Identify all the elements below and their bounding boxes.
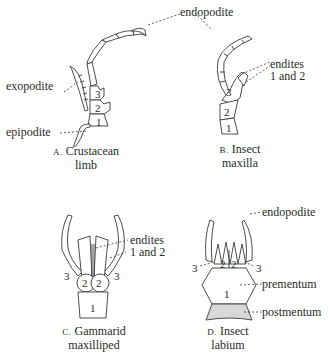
segment-d-3-left: 3 xyxy=(192,262,198,274)
figure-b-insect-maxilla xyxy=(192,10,270,134)
segment-d-2-left: 2 xyxy=(220,258,226,270)
figure-a-crustacean-limb xyxy=(60,14,180,147)
caption-d-line1: Insect xyxy=(220,324,249,338)
caption-a-line2: limb xyxy=(75,158,97,172)
label-c-endites-numbers: 1 and 2 xyxy=(130,246,165,258)
segment-a-1: 1 xyxy=(96,116,102,128)
segment-b-1: 1 xyxy=(226,122,232,134)
caption-c: C. Gammarid maxilliped xyxy=(52,325,136,352)
caption-a-letter: A. xyxy=(53,147,63,157)
segment-c-3-right: 3 xyxy=(114,270,120,282)
segment-c-3-left: 3 xyxy=(64,270,70,282)
segment-d-1: 1 xyxy=(224,288,230,300)
segment-a-2: 2 xyxy=(95,102,101,114)
caption-c-letter: C. xyxy=(62,327,71,337)
label-a-exopodite: exopodite xyxy=(6,80,53,92)
segment-d-2-right: 2 xyxy=(231,258,237,270)
label-a-endopodite: endopodite xyxy=(180,6,233,18)
caption-b-letter: B. xyxy=(220,145,229,155)
label-d-endopodite: endopodite xyxy=(262,206,315,218)
segment-c-2-left: 2 xyxy=(82,277,88,289)
label-d-prementum: prementum xyxy=(262,278,317,290)
segment-c-2-right: 2 xyxy=(96,277,102,289)
label-a-epipodite: epipodite xyxy=(6,126,51,138)
caption-a-line1: Crustacean xyxy=(66,144,119,158)
caption-b-line1: Insect xyxy=(232,142,261,156)
segment-a-3: 3 xyxy=(95,88,101,100)
segment-d-3-right: 3 xyxy=(256,262,262,274)
caption-d: D. Insect labium xyxy=(188,325,268,352)
caption-d-line2: labium xyxy=(211,338,244,352)
caption-a: A. Crustacean limb xyxy=(42,145,130,172)
segment-b-3: 3 xyxy=(226,86,232,98)
segment-c-1: 1 xyxy=(90,302,96,314)
label-b-endites-numbers: 1 and 2 xyxy=(270,70,305,82)
segment-b-2: 2 xyxy=(224,106,230,118)
caption-c-line2: maxilliped xyxy=(68,338,119,352)
caption-b: B. Insect maxilla xyxy=(200,143,280,170)
caption-d-letter: D. xyxy=(207,327,217,337)
caption-b-line2: maxilla xyxy=(222,156,258,170)
label-d-postmentum: postmentum xyxy=(262,306,321,318)
caption-c-line1: Gammarid xyxy=(74,324,125,338)
